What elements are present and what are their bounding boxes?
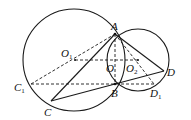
point-a xyxy=(114,33,117,36)
segment-c1a xyxy=(31,34,115,84)
point-o1 xyxy=(74,59,76,61)
label-c: C xyxy=(44,106,52,118)
point-o2 xyxy=(137,59,139,61)
label-o2: O2 xyxy=(126,62,138,76)
label-d: D xyxy=(166,66,175,78)
geometry-diagram: A B C C1 D D1 O O1 O2 xyxy=(0,0,191,120)
label-b: B xyxy=(111,87,118,99)
point-b xyxy=(114,83,117,86)
label-o1: O1 xyxy=(61,47,73,61)
label-a: A xyxy=(110,20,118,32)
label-o: O xyxy=(106,62,114,74)
label-c1: C1 xyxy=(14,81,25,95)
segment-ad xyxy=(115,34,164,71)
label-d1: D1 xyxy=(149,87,162,101)
segment-cb xyxy=(51,84,115,101)
